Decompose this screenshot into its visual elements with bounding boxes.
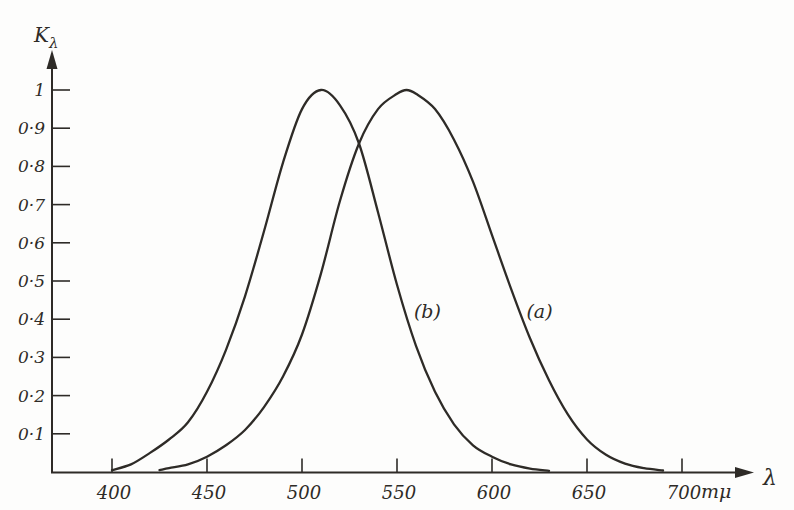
curve-label-a: (a) — [526, 300, 552, 322]
curve-a — [160, 90, 664, 471]
y-tick-label-0·1: 0·1 — [18, 424, 45, 444]
y-tick-label-0·3: 0·3 — [18, 347, 45, 367]
curves-group — [112, 90, 663, 471]
y-tick-labels-group: 10·90·80·70·60·50·40·30·20·1 — [18, 80, 45, 444]
y-tick-label-0·9: 0·9 — [18, 118, 45, 138]
x-tick-label-500: 500 — [287, 482, 321, 503]
x-tick-label-450: 450 — [191, 482, 226, 503]
luminosity-chart: 400450500550600650700 10·90·80·70·60·50·… — [0, 0, 794, 510]
x-tick-label-600: 600 — [477, 482, 511, 503]
x-tick-label-550: 550 — [382, 482, 416, 503]
figure-page: 400450500550600650700 10·90·80·70·60·50·… — [0, 0, 794, 510]
y-axis-title: Kλ — [33, 23, 58, 52]
x-axis-unit-label: mμ — [701, 480, 731, 502]
y-ticks-group — [52, 90, 70, 434]
x-tick-label-700: 700 — [667, 482, 701, 503]
y-tick-label-0·6: 0·6 — [18, 233, 45, 253]
x-tick-label-400: 400 — [96, 482, 131, 503]
y-tick-label-0·5: 0·5 — [18, 271, 45, 291]
y-tick-label-0·8: 0·8 — [18, 156, 45, 176]
axis-titles-group: Kλmμλ — [33, 23, 777, 502]
y-tick-label-0·4: 0·4 — [18, 309, 45, 329]
x-tick-labels-group: 400450500550600650700 — [96, 482, 701, 503]
curve-labels-group: (b)(a) — [414, 300, 553, 322]
y-axis-arrow — [47, 50, 58, 69]
y-tick-label-1: 1 — [34, 80, 45, 100]
x-axis-arrow — [735, 467, 754, 478]
axes-group — [47, 50, 755, 478]
x-tick-label-650: 650 — [572, 482, 606, 503]
x-axis-arrow-label: λ — [762, 465, 777, 490]
y-tick-label-0·2: 0·2 — [18, 386, 45, 406]
curve-label-b: (b) — [414, 300, 441, 322]
curve-b — [112, 90, 549, 471]
y-tick-label-0·7: 0·7 — [18, 195, 45, 215]
